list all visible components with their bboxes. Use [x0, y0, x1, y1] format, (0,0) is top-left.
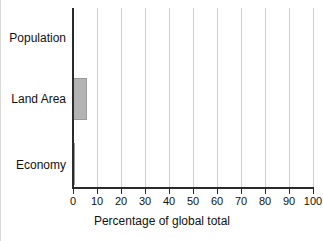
x-tick: [265, 189, 266, 194]
x-tick: [121, 189, 122, 194]
x-tick: [241, 189, 242, 194]
gridline: [145, 8, 146, 187]
x-tick: [313, 189, 314, 194]
bar-land-area: [73, 78, 87, 120]
y-category-label-population: Population: [9, 31, 66, 45]
y-category-label-land-area: Land Area: [11, 92, 66, 106]
gridline: [121, 8, 122, 187]
gridline: [169, 8, 170, 187]
x-tick: [145, 189, 146, 194]
bar-chart-figure: 0 10 20 30 40 50 60 70 80 90 100 Populat…: [0, 0, 323, 241]
x-tick: [97, 189, 98, 194]
x-tick-label-100: 100: [298, 195, 323, 208]
x-tick: [73, 189, 74, 194]
y-axis-line: [72, 8, 74, 188]
x-tick: [289, 189, 290, 194]
plot-area: [73, 8, 313, 187]
gridline: [97, 8, 98, 187]
x-axis-title: Percentage of global total: [1, 214, 323, 228]
y-category-label-economy: Economy: [16, 158, 66, 172]
gridline: [313, 8, 314, 187]
x-tick: [217, 189, 218, 194]
gridline: [193, 8, 194, 187]
gridline: [241, 8, 242, 187]
x-tick: [169, 189, 170, 194]
gridline: [217, 8, 218, 187]
gridline: [265, 8, 266, 187]
x-tick: [193, 189, 194, 194]
gridline: [289, 8, 290, 187]
